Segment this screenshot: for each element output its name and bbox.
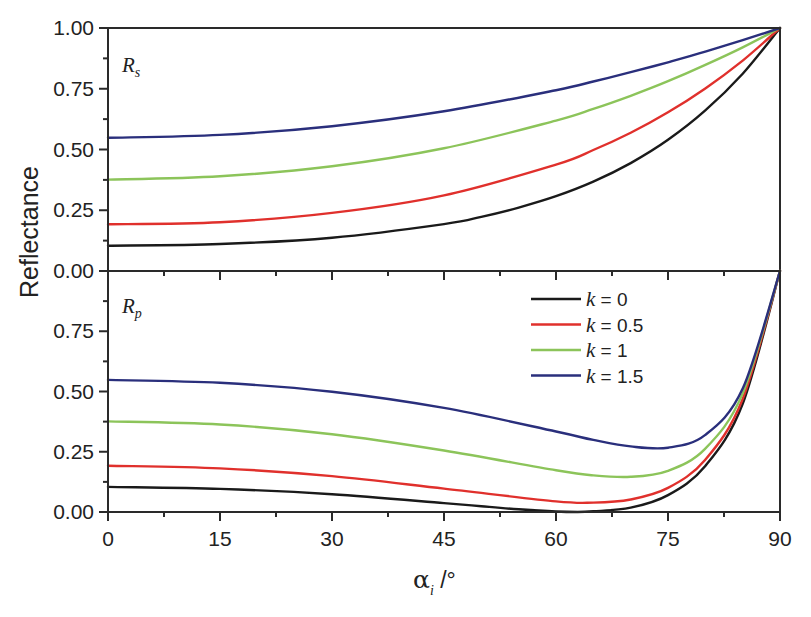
rp-plot-frame	[108, 271, 780, 512]
rs-panel: 0.000.250.500.751.00 Rs	[53, 16, 780, 282]
x-tick-label: 75	[656, 527, 679, 550]
legend-item: k = 1.5	[531, 364, 643, 388]
x-tick-label: 15	[208, 527, 231, 550]
curve-rs-k0	[108, 28, 780, 246]
rs-y-axis: 0.000.250.500.751.00	[53, 16, 108, 282]
y-tick-label: 0.25	[53, 198, 94, 221]
x-tick-label: 60	[544, 527, 567, 550]
rs-panel-label: Rs	[121, 53, 141, 80]
x-tick-label: 30	[320, 527, 343, 550]
y-tick-label: 0.25	[53, 440, 94, 463]
rp-panel: 0.000.250.500.75 0153045607590 Rp k = 0k…	[53, 271, 792, 550]
y-tick-label: 0.50	[53, 138, 94, 161]
rs-curves	[108, 28, 780, 246]
x-tick-label: 0	[102, 527, 114, 550]
rp-curves	[108, 271, 780, 512]
legend: k = 0k = 0.5k = 1k = 1.5	[531, 287, 643, 388]
x-tick-label: 90	[768, 527, 791, 550]
curve-rs-k1	[108, 28, 780, 224]
legend-item: k = 0.5	[531, 313, 643, 337]
x-axis-title: αi /°	[413, 565, 456, 598]
y-tick-label: 0.00	[53, 259, 94, 282]
y-axis-title: Reflectance	[15, 166, 43, 298]
y-tick-label: 1.00	[53, 16, 94, 39]
curve-rp-k0	[108, 271, 780, 512]
y-tick-label: 0.75	[53, 77, 94, 100]
rs-x-axis-ticks	[108, 271, 780, 280]
legend-item: k = 1	[531, 338, 628, 362]
reflectance-chart: 0.000.250.500.751.00 Rs 0.000.250.500.75…	[0, 0, 811, 617]
curve-rs-k3	[108, 28, 780, 138]
rp-y-axis: 0.000.250.500.75	[53, 301, 108, 523]
legend-label: k = 0	[586, 287, 628, 311]
y-tick-label: 0.75	[53, 319, 94, 342]
curve-rp-k1	[108, 271, 780, 503]
y-tick-label: 0.00	[53, 500, 94, 523]
curve-rp-k3	[108, 271, 780, 449]
curve-rs-k2	[108, 28, 780, 180]
legend-label: k = 1	[586, 338, 628, 362]
legend-label: k = 1.5	[586, 364, 643, 388]
y-tick-label: 0.50	[53, 380, 94, 403]
rp-panel-label: Rp	[121, 294, 142, 321]
rp-x-axis: 0153045607590	[102, 512, 792, 550]
legend-label: k = 0.5	[586, 313, 643, 337]
legend-item: k = 0	[531, 287, 628, 311]
x-tick-label: 45	[432, 527, 455, 550]
